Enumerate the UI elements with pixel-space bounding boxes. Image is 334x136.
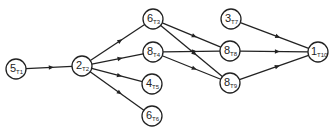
node-label: T9 (230, 83, 238, 89)
edge-line (240, 23, 308, 49)
edge-line (90, 72, 144, 110)
edges-layer (26, 23, 309, 111)
edge-t7-t10 (240, 23, 308, 49)
node-t8: 8T8 (220, 41, 240, 61)
node-t4: 8T4 (143, 42, 163, 62)
arrowhead-icon (274, 65, 279, 69)
node-t3: 6T3 (143, 9, 163, 29)
edge-line (92, 54, 143, 64)
node-label: T4 (153, 52, 161, 58)
node-label: T8 (230, 51, 238, 57)
node-t10: 1T10 (308, 42, 328, 62)
node-t1: 5T1 (6, 59, 26, 79)
arrowhead-icon (275, 49, 280, 53)
node-t2: 2T2 (72, 56, 92, 76)
edge-line (162, 23, 221, 47)
node-label: T5 (152, 84, 160, 90)
node-label: T7 (231, 19, 239, 25)
node-t6: 6T6 (142, 106, 162, 126)
node-t9: 8T9 (220, 73, 240, 93)
edge-t4-t8 (163, 49, 220, 53)
edge-line (239, 55, 308, 79)
edge-t2-t6 (90, 72, 144, 110)
edge-line (92, 68, 143, 81)
edge-t1-t2 (26, 65, 72, 69)
edge-line (240, 51, 308, 52)
node-label: T10 (317, 52, 328, 58)
edge-t3-t8 (162, 23, 221, 47)
node-label: T2 (82, 66, 90, 72)
node-label: T6 (152, 116, 160, 122)
arrowhead-icon (49, 65, 54, 69)
edge-t9-t10 (239, 55, 308, 79)
node-t7: 3T7 (221, 9, 241, 29)
edge-t8-t10 (240, 49, 308, 53)
edge-t2-t4 (92, 54, 143, 64)
node-label: T1 (16, 69, 24, 75)
edge-line (163, 51, 220, 52)
edge-t2-t5 (92, 68, 143, 81)
node-label: T3 (153, 19, 161, 25)
arrowhead-icon (117, 57, 122, 61)
task-graph-diagram: 5T12T26T38T44T56T63T78T88T91T10 (0, 0, 334, 136)
node-t5: 4T5 (142, 74, 162, 94)
arrowhead-icon (275, 34, 280, 38)
